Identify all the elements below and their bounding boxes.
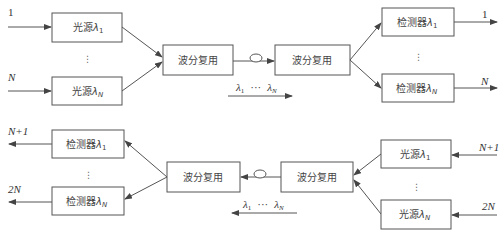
- bottom-source-n: 光源λN: [381, 200, 451, 229]
- source-label: 光源: [399, 208, 419, 220]
- top-fiber: [233, 54, 274, 62]
- source-label: 光源: [73, 21, 93, 33]
- top-mux-right: 波分复用: [275, 45, 350, 75]
- top-output-n-label: N: [480, 75, 489, 87]
- arrow-icon: [354, 154, 381, 175]
- bottom-output-1-label: N+1: [7, 125, 28, 137]
- top-detector-n: 检测器λN: [382, 74, 454, 102]
- ellipsis: ···: [250, 81, 261, 93]
- bottom-input-2n: 2N: [452, 200, 497, 215]
- bottom-input-2-label: 2N: [482, 200, 496, 212]
- svg-text:2N: 2N: [8, 183, 22, 195]
- top-source-n: 光源λN: [52, 77, 122, 105]
- lambda-subscript: N: [425, 214, 431, 222]
- lambda-subscript: 1: [241, 87, 245, 95]
- bottom-wavelengths: λ1···λN: [232, 198, 297, 213]
- svg-text:检测器λN: 检测器λN: [396, 82, 438, 96]
- ellipsis: ···: [257, 198, 268, 210]
- svg-text:2N: 2N: [482, 200, 496, 212]
- bottom-input-1-label: N+1: [478, 141, 499, 153]
- fiber-loop-icon: [254, 170, 266, 178]
- top-link: 1 N 光源λ1 ⋮ 光源λN 波分复用: [7, 6, 497, 105]
- lambda-symbol: λ: [425, 83, 432, 94]
- svg-text:N+1: N+1: [7, 125, 28, 137]
- vertical-ellipsis: ⋮: [414, 52, 423, 62]
- arrow-icon: [354, 180, 381, 214]
- lambda-subscript: 1: [433, 22, 437, 30]
- bottom-mux-left: 波分复用: [167, 162, 240, 192]
- bottom-output-n-plus-1: N+1: [7, 125, 52, 144]
- top-input-1-label: 1: [8, 6, 14, 18]
- top-output-1-label: 1: [482, 8, 488, 20]
- detector-label: 检测器: [396, 82, 426, 94]
- lambda-symbol: λ: [426, 17, 433, 28]
- bottom-detector-n: 检测器λN: [52, 187, 124, 215]
- arrow-icon: [350, 60, 381, 88]
- bottom-mux-right: 波分复用: [281, 162, 353, 192]
- top-source-1: 光源λ1: [52, 13, 122, 42]
- lambda-subscript: 1: [426, 154, 430, 162]
- bottom-input-n-plus-1: N+1: [452, 141, 499, 155]
- bottom-detector-1: 检测器λ1: [52, 130, 124, 158]
- vertical-ellipsis: ⋮: [84, 170, 93, 180]
- lambda-subscript: N: [432, 88, 438, 96]
- top-wavelengths: λ1···λN: [228, 81, 292, 96]
- mux-label: 波分复用: [297, 171, 337, 183]
- top-output-n: N: [454, 75, 497, 88]
- lambda-symbol: λ: [92, 22, 99, 33]
- detector-label: 检测器: [66, 195, 96, 207]
- lambda-subscript: 1: [99, 27, 103, 35]
- lambda-symbol: λ: [418, 209, 425, 220]
- lambda-symbol: λ: [95, 196, 102, 207]
- svg-text:λ1···λN: λ1···λN: [242, 198, 284, 212]
- detector-label: 检测器: [66, 138, 96, 150]
- bottom-output-2-label: 2N: [8, 183, 22, 195]
- wdm-diagram: 1 N 光源λ1 ⋮ 光源λN 波分复用: [0, 0, 504, 238]
- lambda-symbol: λ: [95, 139, 102, 150]
- detector-label: 检测器: [397, 16, 427, 28]
- bottom-source-1: 光源λ1: [381, 140, 451, 168]
- top-input-n: N: [7, 71, 51, 91]
- lambda-subscript: N: [278, 204, 284, 212]
- fiber-loop-icon: [250, 54, 262, 62]
- bottom-fiber: [241, 170, 281, 178]
- lambda-subscript: N: [102, 201, 108, 209]
- mux-label: 波分复用: [292, 54, 332, 66]
- arrow-icon: [350, 23, 381, 60]
- lambda-symbol: λ: [419, 149, 426, 160]
- source-label: 光源: [72, 85, 92, 97]
- arrow-icon: [122, 27, 162, 57]
- top-mux-left: 波分复用: [163, 45, 233, 75]
- mux-label: 波分复用: [183, 171, 223, 183]
- lambda-subscript: 1: [102, 144, 106, 152]
- svg-text:检测器λ1: 检测器λ1: [66, 138, 106, 152]
- bottom-link: N+1 2N 检测器λ1 ⋮ 检测器λN 波分复用: [7, 125, 499, 229]
- arrow-icon: [122, 62, 162, 91]
- svg-text:λ1···λN: λ1···λN: [235, 81, 277, 95]
- mux-label: 波分复用: [178, 54, 218, 66]
- top-input-1: 1: [8, 6, 51, 27]
- top-detector-1: 检测器λ1: [382, 8, 454, 36]
- vertical-ellipsis: ⋮: [412, 182, 421, 192]
- lambda-subscript: N: [271, 87, 277, 95]
- bottom-output-2n: 2N: [8, 183, 52, 202]
- source-label: 光源: [400, 148, 420, 160]
- arrow-icon: [125, 177, 167, 199]
- svg-text:光源λ1: 光源λ1: [73, 21, 103, 35]
- lambda-subscript: 1: [248, 204, 252, 212]
- svg-text:检测器λ1: 检测器λ1: [397, 16, 437, 30]
- svg-text:N+1: N+1: [478, 141, 499, 153]
- lambda-symbol: λ: [91, 86, 98, 97]
- svg-text:光源λ1: 光源λ1: [400, 148, 430, 162]
- arrow-icon: [125, 141, 167, 177]
- top-output-1: 1: [454, 8, 497, 22]
- vertical-ellipsis: ⋮: [83, 54, 92, 64]
- top-input-n-label: N: [7, 71, 16, 83]
- lambda-subscript: N: [98, 91, 104, 99]
- svg-text:检测器λN: 检测器λN: [66, 195, 108, 209]
